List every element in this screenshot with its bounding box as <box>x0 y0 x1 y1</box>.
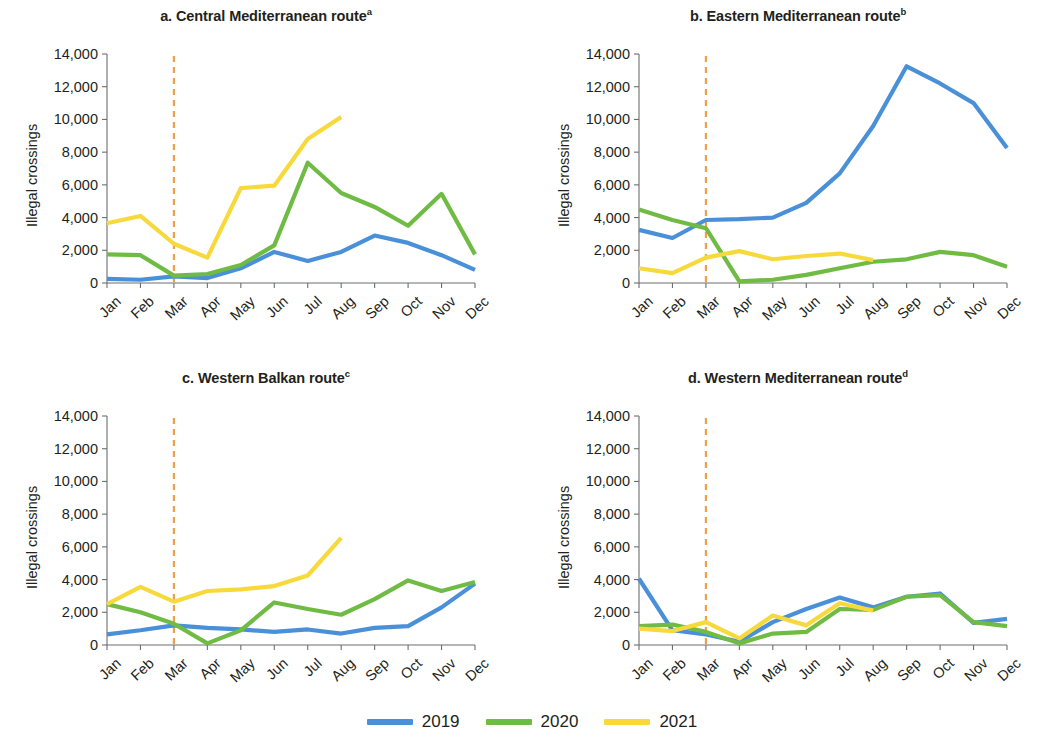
panel-western-mediterranean: d. Western Mediterranean routed Illegal … <box>532 362 1064 714</box>
panel-western-balkan: c. Western Balkan routec Illegal crossin… <box>0 362 532 714</box>
legend-swatch-icon <box>367 719 413 725</box>
axis-lines <box>107 416 475 645</box>
chart-legend: 201920202021 <box>0 712 1064 732</box>
panel-eastern-mediterranean: b. Eastern Mediterranean routeb Illegal … <box>532 0 1064 352</box>
axis-lines <box>639 416 1007 645</box>
legend-swatch-icon <box>604 719 650 725</box>
illegal-crossings-figure: a. Central Mediterranean routea Illegal … <box>0 0 1064 750</box>
legend-swatch-icon <box>486 719 532 725</box>
series-line-2019 <box>639 579 1007 642</box>
legend-label: 2019 <box>422 712 460 732</box>
legend-label: 2021 <box>659 712 697 732</box>
series-line-2021 <box>107 538 341 604</box>
plot-area <box>532 362 1064 714</box>
series-line-2019 <box>639 66 1007 238</box>
series-line-2019 <box>107 236 475 280</box>
plot-area <box>532 0 1064 352</box>
series-line-2020 <box>107 580 475 643</box>
legend-label: 2020 <box>541 712 579 732</box>
plot-area <box>0 0 532 352</box>
legend-item-2019: 2019 <box>367 712 460 732</box>
series-line-2019 <box>107 584 475 635</box>
series-line-2021 <box>107 117 341 258</box>
legend-item-2020: 2020 <box>486 712 579 732</box>
series-line-2020 <box>639 209 1007 281</box>
legend-item-2021: 2021 <box>604 712 697 732</box>
series-line-2020 <box>107 163 475 276</box>
plot-area <box>0 362 532 714</box>
panel-central-mediterranean: a. Central Mediterranean routea Illegal … <box>0 0 532 352</box>
